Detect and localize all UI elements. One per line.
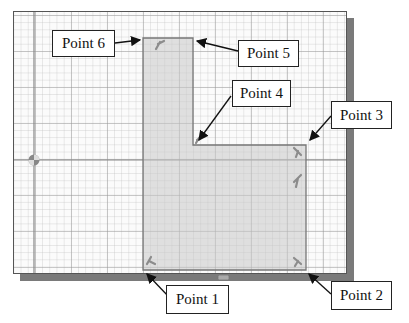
callout-point-6: Point 6 xyxy=(52,30,115,57)
callout-point-1: Point 1 xyxy=(166,285,229,314)
horizontal-constraint-icon xyxy=(218,275,229,280)
leader-point-3 xyxy=(310,116,331,140)
callout-point-5: Point 5 xyxy=(238,40,299,67)
leader-point-5 xyxy=(197,41,238,51)
leader-point-4 xyxy=(199,96,231,140)
callout-point-2: Point 2 xyxy=(331,281,392,310)
leader-point-6 xyxy=(115,40,140,43)
callout-point-4: Point 4 xyxy=(232,80,291,107)
callout-point-3: Point 3 xyxy=(331,101,392,129)
origin-icon xyxy=(29,155,40,166)
leader-point-2 xyxy=(309,274,331,294)
l-shaped-profile[interactable] xyxy=(143,38,306,270)
